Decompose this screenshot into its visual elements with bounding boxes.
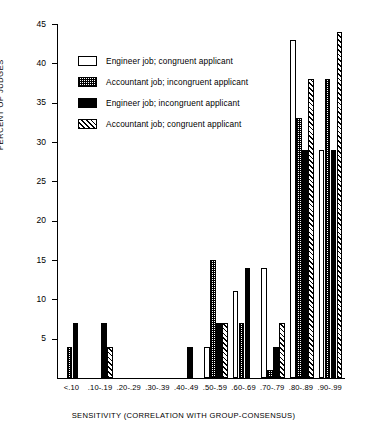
- x-axis-category-label: .70-.79: [258, 383, 287, 392]
- y-axis-tick-label: 10: [18, 295, 46, 304]
- legend-item-label: Engineer job; incongruent applicant: [106, 98, 240, 108]
- legend-item: Accountant job; incongruent applicant: [78, 71, 293, 92]
- x-axis-line: [57, 378, 345, 379]
- x-axis-category-label: .10-.19: [86, 383, 115, 392]
- bar: [325, 79, 331, 378]
- bar: [319, 150, 325, 378]
- legend-swatch-icon: [78, 98, 97, 108]
- bar: [107, 347, 113, 378]
- y-axis-tick-label: 25: [18, 177, 46, 186]
- bar: [239, 323, 245, 378]
- legend-item: Engineer job; congruent applicant: [78, 50, 293, 71]
- x-axis-label: SENSITIVITY (CORRELATION WITH GROUP-CONS…: [0, 411, 367, 420]
- legend-swatch-icon: [78, 56, 97, 66]
- bar: [233, 291, 239, 378]
- y-axis-tick-label: 5: [18, 334, 46, 343]
- bar: [337, 32, 343, 378]
- y-axis-tick-label: 20: [18, 216, 46, 225]
- y-axis-tick-label: 40: [18, 59, 46, 68]
- legend-swatch-icon: [78, 119, 97, 129]
- bar: [279, 323, 285, 378]
- legend-swatch-icon: [78, 77, 97, 87]
- x-axis-category-label: .40-.49: [172, 383, 201, 392]
- bar: [210, 260, 216, 378]
- bar: [331, 150, 337, 378]
- x-axis-category-labels: <.10.10-.19.20-.29.30-.39.40-.49.50-.59.…: [57, 383, 345, 399]
- y-axis-tick-label: 45: [18, 20, 46, 29]
- bar: [296, 118, 302, 378]
- bar: [216, 323, 222, 378]
- bar: [187, 347, 193, 378]
- bar: [308, 79, 314, 378]
- x-axis-category-label: .20-.29: [114, 383, 143, 392]
- y-axis-label-wrapper: PERCENT OF JUDGES: [0, 30, 5, 150]
- bar: [67, 347, 73, 378]
- y-axis-tick-label: 15: [18, 256, 46, 265]
- bar: [267, 370, 273, 378]
- chart-figure: PERCENT OF JUDGES 51015202530354045 <.10…: [0, 0, 367, 437]
- bar: [222, 323, 228, 378]
- legend-item: Accountant job; congruent applicant: [78, 113, 293, 134]
- legend-item-label: Accountant job; congruent applicant: [106, 119, 241, 129]
- y-axis-label: PERCENT OF JUDGES: [0, 30, 5, 150]
- x-axis-category-label: .90-.99: [315, 383, 344, 392]
- bar: [101, 323, 107, 378]
- y-axis-tick-label: 30: [18, 138, 46, 147]
- bar: [273, 347, 279, 378]
- bar: [245, 268, 251, 378]
- x-axis-category-label: .60-.69: [229, 383, 258, 392]
- y-axis-tick-label: 35: [18, 98, 46, 107]
- bar: [73, 323, 79, 378]
- legend-item: Engineer job; incongruent applicant: [78, 92, 293, 113]
- bar: [204, 347, 210, 378]
- bar: [261, 268, 267, 378]
- x-axis-category-label: .80-.89: [287, 383, 316, 392]
- x-axis-category-label: <.10: [57, 383, 86, 392]
- legend-item-label: Accountant job; incongruent applicant: [106, 77, 248, 87]
- bar: [302, 150, 308, 378]
- x-axis-category-label: .30-.39: [143, 383, 172, 392]
- legend-item-label: Engineer job; congruent applicant: [106, 56, 233, 66]
- chart-legend: Engineer job; congruent applicantAccount…: [78, 50, 293, 134]
- x-axis-category-label: .50-.59: [201, 383, 230, 392]
